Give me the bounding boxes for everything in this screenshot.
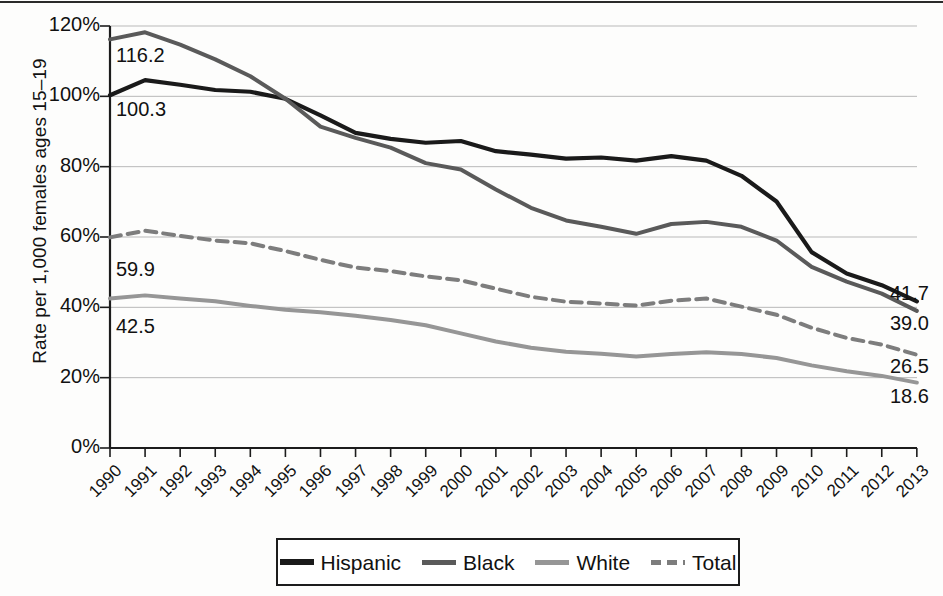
gridlines [110,26,917,378]
legend-item-total[interactable]: Total [651,552,736,573]
legend-label-white: White [576,552,630,573]
data-series-group [110,32,917,382]
legend-swatch-hispanic-icon [280,559,314,565]
legend-label-hispanic: Hispanic [321,552,402,573]
legend-label-black: Black [463,552,514,573]
legend-swatch-white-icon [535,560,569,565]
x-axis-labels: 1990199119921993199419951996199719981999… [0,455,943,530]
legend-item-black[interactable]: Black [422,552,514,573]
chart-svg [0,0,943,470]
legend-label-total: Total [692,552,736,573]
series-line-hispanic [110,80,917,301]
series-line-black [110,32,917,311]
chart-legend: HispanicBlackWhiteTotal [276,538,740,586]
end-value-label-total: 26.5 [890,355,929,378]
legend-swatch-total-icon [651,560,685,565]
series-line-white [110,295,917,382]
end-value-label-hispanic: 41.7 [890,282,929,305]
legend-swatch-black-icon [422,560,456,565]
end-value-label-white: 18.6 [890,385,929,408]
end-value-label-black: 39.0 [890,312,929,335]
start-value-label-total: 59.9 [116,258,155,281]
start-value-label-hispanic: 100.3 [116,98,166,121]
series-line-total [110,231,917,355]
start-value-label-black: 116.2 [116,44,165,67]
legend-item-white[interactable]: White [535,552,630,573]
start-value-label-white: 42.5 [116,315,155,338]
legend-item-hispanic[interactable]: Hispanic [280,552,402,573]
chart-plot-area: Rate per 1,000 females ages 15–19 0%20%4… [0,0,943,470]
